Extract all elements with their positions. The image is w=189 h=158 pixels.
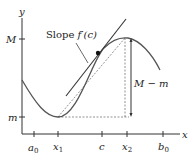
y-tick-label-M: M bbox=[5, 34, 17, 45]
arrow-head-down bbox=[130, 113, 133, 117]
tangent-point bbox=[96, 51, 100, 55]
x-tick-label-a0: a0 bbox=[28, 142, 38, 155]
x-tick-label-b0: b0 bbox=[158, 141, 169, 154]
y-tick-label-m: m bbox=[8, 112, 17, 123]
slope-leader-line bbox=[76, 43, 88, 63]
x-axis-label: x bbox=[182, 129, 188, 140]
slope-label: Slope f′(c) bbox=[46, 29, 97, 40]
y-axis-label: y bbox=[18, 6, 25, 17]
dashed-secant bbox=[58, 38, 125, 117]
mvt-diagram: y x M m a0 x1 c x2 b0 Slope f′(c) M − m bbox=[0, 0, 189, 158]
x-tick-label-x2: x2 bbox=[122, 141, 132, 154]
x-tick-label-x1: x1 bbox=[53, 141, 63, 154]
x-tick-label-c: c bbox=[99, 141, 105, 152]
difference-label: M − m bbox=[133, 78, 168, 89]
construction-lines bbox=[58, 38, 129, 117]
difference-arrow bbox=[130, 38, 133, 117]
